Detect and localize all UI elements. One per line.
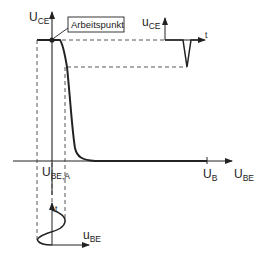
- input-signal-label: uBE: [83, 228, 101, 244]
- output-signal-label: uCE: [142, 15, 161, 31]
- ube-a-label: UBE,A: [42, 165, 70, 181]
- ub-label: UB: [203, 167, 218, 183]
- operating-point-label: Arbeitspunkt: [71, 19, 124, 30]
- input-signal-sine: [37, 210, 65, 245]
- transfer-characteristic-diagram: UCE UBE UBE,A UB Arbeitspunkt uCE t t uB…: [0, 0, 267, 260]
- transfer-curve: [37, 40, 207, 161]
- operating-point-dot: [49, 37, 54, 42]
- operating-point-leader: [54, 28, 68, 38]
- y-axis-label: UCE: [29, 10, 50, 26]
- output-time-label: t: [205, 30, 208, 40]
- x-axis-label: UBE: [234, 167, 254, 183]
- output-signal-pulse: [165, 40, 200, 67]
